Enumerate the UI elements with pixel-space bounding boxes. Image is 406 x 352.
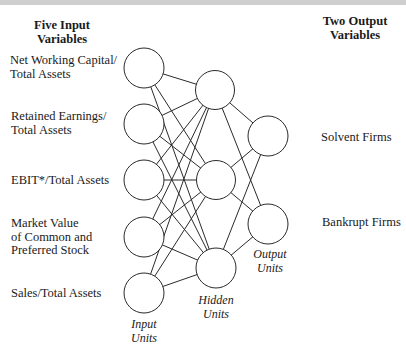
input-unit-4	[124, 217, 164, 257]
hidden-units	[196, 71, 237, 289]
input-unit-1	[124, 48, 164, 88]
hidden-units-label: Hidden Units	[194, 294, 238, 321]
output-units-label: Output Units	[248, 248, 292, 275]
hidden-unit-1	[196, 71, 235, 110]
output-unit-2	[248, 204, 288, 244]
hidden-unit-2	[197, 161, 236, 200]
input-units-label: Input Units	[124, 318, 164, 345]
output-units	[248, 116, 288, 244]
input-unit-2	[124, 104, 164, 144]
hidden-unit-3	[196, 248, 236, 288]
input-units	[124, 48, 164, 313]
input-unit-3	[124, 160, 164, 200]
input-unit-5	[124, 273, 164, 313]
output-unit-1	[248, 116, 288, 156]
